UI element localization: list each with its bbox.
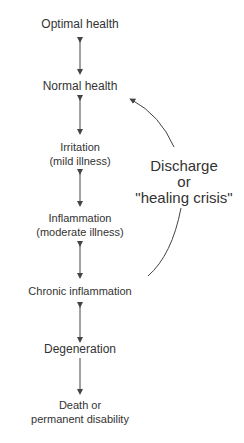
discharge-label: Discharge or "healing crisis" [128, 158, 240, 206]
stage-chronic-inflammation: Chronic inflammation [10, 284, 150, 298]
stage-inflammation: Inflammation (moderate illness) [10, 211, 150, 239]
stage-degeneration: Degeneration [20, 342, 140, 356]
stage-normal-health: Normal health [20, 79, 140, 93]
curve-lower-from-chronic [148, 208, 181, 276]
stage-optimal-health: Optimal health [20, 17, 140, 31]
stage-death: Death or permanent disability [10, 398, 150, 426]
stage-irritation: Irritation (mild illness) [20, 140, 140, 168]
